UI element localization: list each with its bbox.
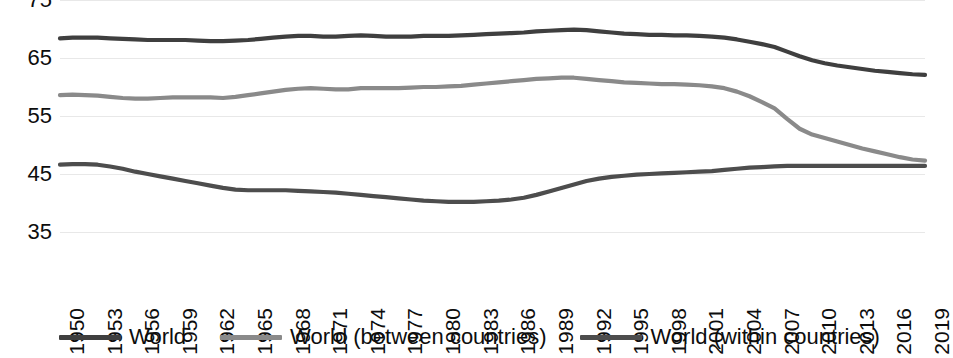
- legend-line-swatch-icon: [59, 335, 121, 340]
- legend-item-1[interactable]: World (between countries): [220, 326, 546, 348]
- y-axis: 7565554535: [0, 0, 52, 232]
- legend-label: World (within countries): [650, 326, 879, 348]
- y-tick-label-65: 65: [28, 47, 52, 69]
- legend-label: World (between countries): [290, 326, 546, 348]
- series-line: [60, 78, 925, 161]
- y-tick-label-55: 55: [28, 105, 52, 127]
- series-line: [60, 164, 925, 202]
- legend-line-swatch-icon: [220, 335, 282, 340]
- legend-line-swatch-icon: [580, 335, 642, 340]
- x-axis: 1950195319561959196219651968197119741977…: [60, 236, 925, 312]
- series-line: [60, 30, 925, 75]
- legend-item-0[interactable]: World: [59, 326, 186, 348]
- y-tick-label-35: 35: [28, 221, 52, 243]
- y-tick-label-75: 75: [28, 0, 52, 11]
- gridline: [60, 232, 925, 233]
- plot-area: [60, 0, 925, 232]
- legend-item-2[interactable]: World (within countries): [580, 326, 879, 348]
- legend-label: World: [129, 326, 186, 348]
- series-layer: [60, 0, 925, 232]
- y-tick-label-45: 45: [28, 163, 52, 185]
- chart-legend: WorldWorld (between countries)World (wit…: [0, 316, 939, 358]
